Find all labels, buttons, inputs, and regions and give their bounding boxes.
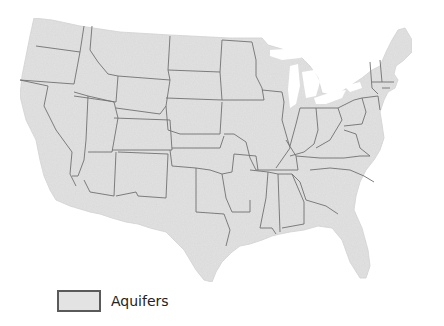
legend-swatch-aquifers: [57, 290, 101, 312]
us-aquifer-map: [0, 0, 444, 326]
legend: Aquifers: [57, 290, 169, 312]
legend-label-aquifers: Aquifers: [111, 293, 169, 309]
